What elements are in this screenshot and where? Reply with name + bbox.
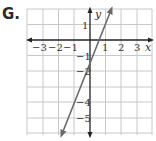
x-tick: 1	[102, 42, 108, 53]
y-axis-label: y	[94, 8, 102, 21]
x-axis-label: x	[145, 41, 152, 54]
x-tick: −3	[32, 42, 47, 53]
coordinate-plane: −3 −2 −1 1 2 3 x y 1 −1 −2 −4 −5	[0, 0, 156, 141]
y-tick: −1	[76, 51, 91, 62]
x-tick: 2	[118, 42, 124, 53]
y-tick: −5	[76, 113, 91, 124]
y-tick-labels: y 1 −1 −2 −4 −5	[76, 8, 102, 124]
y-tick: −4	[76, 97, 91, 108]
x-tick: 3	[134, 42, 140, 53]
x-tick-labels: −3 −2 −1 1 2 3 x	[32, 41, 152, 54]
y-tick: 1	[82, 20, 88, 31]
x-tick: −2	[48, 42, 63, 53]
y-tick: −2	[76, 66, 91, 77]
